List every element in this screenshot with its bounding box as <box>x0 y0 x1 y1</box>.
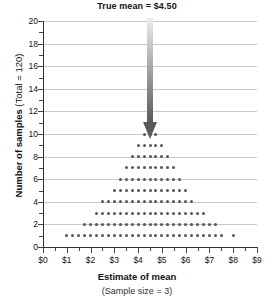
data-dot <box>143 178 146 181</box>
x-tick <box>209 248 210 253</box>
data-dot <box>196 234 199 237</box>
data-dot <box>160 155 163 158</box>
data-dot <box>77 234 80 237</box>
data-dot <box>113 212 116 215</box>
x-tick-minor <box>221 248 222 251</box>
data-dot <box>125 189 128 192</box>
x-tick-label: $9 <box>245 255 269 265</box>
data-dot <box>166 234 169 237</box>
x-axis-label-sub: (Sample size = 3) <box>0 286 274 296</box>
data-dot <box>149 212 152 215</box>
data-dot <box>178 189 181 192</box>
data-dot <box>184 212 187 215</box>
data-dot <box>107 212 110 215</box>
data-dot <box>113 189 116 192</box>
data-dot <box>143 212 146 215</box>
data-dot <box>95 223 98 226</box>
data-dot <box>172 178 175 181</box>
data-dot <box>160 189 163 192</box>
y-tick <box>38 89 43 90</box>
data-dot <box>89 234 92 237</box>
data-dot <box>143 155 146 158</box>
y-tick-minor <box>39 100 43 101</box>
data-dot <box>131 234 134 237</box>
plot-area <box>43 21 257 247</box>
data-dot <box>178 200 181 203</box>
data-dot <box>160 178 163 181</box>
data-dot <box>83 223 86 226</box>
y-tick-minor <box>39 168 43 169</box>
x-tick-minor <box>150 248 151 251</box>
x-tick <box>162 248 163 253</box>
data-dot <box>125 234 128 237</box>
data-dot <box>160 200 163 203</box>
data-dot <box>190 234 193 237</box>
x-tick <box>114 248 115 253</box>
data-dot <box>166 223 169 226</box>
data-dot <box>149 223 152 226</box>
x-tick-label: $1 <box>55 255 79 265</box>
y-tick <box>38 111 43 112</box>
data-dot <box>166 200 169 203</box>
data-dot <box>107 223 110 226</box>
data-dot <box>178 212 181 215</box>
data-dot <box>154 155 157 158</box>
x-tick-minor <box>102 248 103 251</box>
x-tick-label: $5 <box>150 255 174 265</box>
data-dot <box>149 155 152 158</box>
data-dot <box>149 178 152 181</box>
data-dot <box>119 234 122 237</box>
data-dot <box>154 223 157 226</box>
data-dot <box>202 212 205 215</box>
x-tick <box>233 248 234 253</box>
data-dot <box>166 212 169 215</box>
y-tick-minor <box>39 236 43 237</box>
data-dot <box>101 212 104 215</box>
data-dot <box>214 234 217 237</box>
x-tick <box>43 248 44 253</box>
data-dot <box>220 234 223 237</box>
x-tick-minor <box>126 248 127 251</box>
data-dot <box>149 189 152 192</box>
data-dot <box>178 234 181 237</box>
data-dot <box>149 234 152 237</box>
data-dot <box>101 223 104 226</box>
data-dot <box>101 234 104 237</box>
data-dot <box>184 234 187 237</box>
y-tick-minor <box>39 78 43 79</box>
data-dot <box>143 234 146 237</box>
data-dot <box>178 178 181 181</box>
data-dot <box>65 234 68 237</box>
x-tick <box>67 248 68 253</box>
data-dot <box>214 223 217 226</box>
data-dot <box>149 200 152 203</box>
data-dot <box>160 234 163 237</box>
data-dot <box>119 212 122 215</box>
x-tick-label: $7 <box>197 255 221 265</box>
data-dot <box>172 212 175 215</box>
data-dot <box>172 200 175 203</box>
y-tick <box>38 179 43 180</box>
y-tick-label: 0 <box>14 242 38 252</box>
data-dot <box>119 223 122 226</box>
data-dot <box>119 200 122 203</box>
data-dot <box>202 234 205 237</box>
x-tick <box>186 248 187 253</box>
data-dot <box>137 178 140 181</box>
data-dot <box>71 234 74 237</box>
data-dot <box>196 223 199 226</box>
data-dot <box>172 223 175 226</box>
data-dot <box>131 189 134 192</box>
data-dot <box>143 200 146 203</box>
data-dot <box>172 189 175 192</box>
data-dot <box>107 200 110 203</box>
data-dot <box>154 189 157 192</box>
data-dot <box>131 223 134 226</box>
data-dot <box>149 144 152 147</box>
data-dot <box>131 178 134 181</box>
y-tick <box>38 21 43 22</box>
y-tick <box>38 44 43 45</box>
true-mean-arrow-icon <box>142 18 158 140</box>
y-axis-label: Number of samples (Total = 120) <box>13 11 24 241</box>
data-dot <box>178 223 181 226</box>
